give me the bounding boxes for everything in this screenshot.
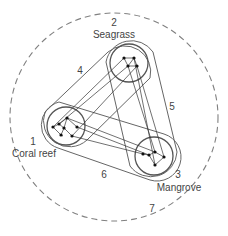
zone-label-5: 5 xyxy=(169,101,175,112)
zone-label-4: 4 xyxy=(77,65,83,76)
habitat-circle-mangrove xyxy=(135,137,173,175)
habitat-number-seagrass: 2 xyxy=(111,17,117,28)
connection-zone-6 xyxy=(41,102,181,181)
habitat-connectivity-diagram: 2 Seagrass 1 Coral reef 3 Mangrove 4 5 6… xyxy=(0,0,228,236)
zone-label-6: 6 xyxy=(101,169,107,180)
habitat-number-coral-reef: 1 xyxy=(30,136,36,147)
outer-boundary-label: 7 xyxy=(149,203,155,214)
habitat-label-coral-reef: Coral reef xyxy=(12,148,56,159)
habitat-number-mangrove: 3 xyxy=(175,169,181,180)
habitat-label-mangrove: Mangrove xyxy=(157,182,202,193)
habitat-label-seagrass: Seagrass xyxy=(93,29,135,40)
